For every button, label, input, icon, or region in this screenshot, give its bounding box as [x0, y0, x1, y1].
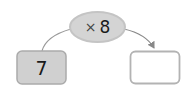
output-arrow-arc: [124, 29, 154, 48]
output-value[interactable]: [130, 51, 180, 84]
input-value: 7: [17, 51, 66, 84]
operation-operand: 8: [99, 17, 110, 37]
operation-label: × 8: [70, 12, 125, 42]
input-connector-arc: [42, 29, 71, 51]
multiply-symbol: ×: [85, 19, 97, 35]
